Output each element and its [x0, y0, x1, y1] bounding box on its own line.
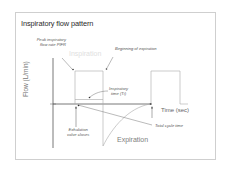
exhalation-line2: valve closes [67, 133, 89, 138]
y-axis-label: Flow (L/min) [22, 61, 29, 97]
total-cycle-line [78, 105, 152, 125]
inspiratory-time-annotation: Inspiratory time (Ti) [109, 87, 128, 96]
exhalation-valve-annotation: Exhalation valve closes [67, 128, 89, 137]
ti-line2: time (Ti) [109, 92, 128, 97]
inspiration-waveform-2 [151, 71, 180, 104]
expiration-label: Expiration [117, 136, 148, 143]
pifr-annotation: Peak inspiratory flow rate PIFR [20, 38, 66, 47]
beginning-expiration-annotation: Beginning of expiration [115, 47, 157, 52]
pifr-line2: flow rate PIFR [20, 43, 66, 48]
inspiration-label: Inspiration [69, 50, 101, 57]
x-axis-label: Time (sec) [161, 107, 189, 113]
total-cycle-annotation: Total cycle time [155, 124, 183, 129]
